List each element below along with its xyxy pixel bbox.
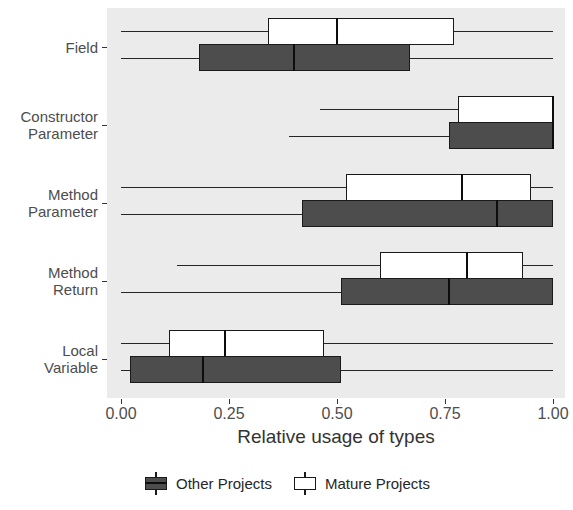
y-axis-tick-label: Method Parameter bbox=[8, 186, 98, 220]
x-axis-tick-label: 0.50 bbox=[321, 405, 352, 423]
box-median-line bbox=[202, 356, 204, 383]
box-median-line bbox=[448, 278, 450, 305]
box-rect bbox=[169, 330, 325, 357]
x-axis-tick-label: 0.00 bbox=[105, 405, 136, 423]
x-axis-tick-mark bbox=[121, 399, 122, 404]
y-axis-tick-label: Constructor Parameter bbox=[8, 108, 98, 142]
x-axis-tick-mark bbox=[337, 399, 338, 404]
y-axis-tick-mark bbox=[102, 281, 107, 282]
box-rect bbox=[199, 44, 411, 71]
x-axis-tick-label: 1.00 bbox=[537, 405, 568, 423]
x-axis-tick-mark bbox=[445, 399, 446, 404]
x-axis-tick-mark bbox=[229, 399, 230, 404]
x-axis-tick-label: 0.25 bbox=[213, 405, 244, 423]
x-axis-title: Relative usage of types bbox=[107, 426, 565, 448]
box-median-line bbox=[336, 18, 338, 45]
y-axis-tick-label: Local Variable bbox=[8, 342, 98, 376]
legend-label: Other Projects bbox=[176, 475, 272, 492]
box-rect bbox=[341, 278, 553, 305]
box-rect bbox=[380, 252, 523, 279]
y-axis-tick-mark bbox=[102, 47, 107, 48]
box-median-line bbox=[496, 200, 498, 227]
legend-boxplot-icon bbox=[292, 472, 318, 494]
box-median-line bbox=[552, 96, 554, 123]
boxplot-chart: FieldConstructor ParameterMethod Paramet… bbox=[0, 0, 573, 510]
box-rect bbox=[449, 122, 553, 149]
box-median-line bbox=[466, 252, 468, 279]
y-axis-tick-mark bbox=[102, 125, 107, 126]
legend-label: Mature Projects bbox=[325, 475, 430, 492]
box-median-line bbox=[461, 174, 463, 201]
y-axis-tick-label: Method Return bbox=[8, 264, 98, 298]
y-axis-tick-mark bbox=[102, 203, 107, 204]
box-rect bbox=[268, 18, 454, 45]
box-median-line bbox=[224, 330, 226, 357]
legend: Other ProjectsMature Projects bbox=[0, 472, 573, 494]
x-axis-tick-label: 0.75 bbox=[429, 405, 460, 423]
box-rect bbox=[346, 174, 532, 201]
box-rect bbox=[302, 200, 553, 227]
legend-item[interactable]: Mature Projects bbox=[292, 472, 430, 494]
legend-item[interactable]: Other Projects bbox=[143, 472, 272, 494]
box-rect bbox=[458, 96, 553, 123]
box-median-line bbox=[552, 122, 554, 149]
y-axis-tick-label: Field bbox=[8, 39, 98, 56]
x-axis-tick-mark bbox=[553, 399, 554, 404]
legend-boxplot-icon bbox=[143, 472, 169, 494]
y-axis-tick-mark bbox=[102, 359, 107, 360]
box-rect bbox=[130, 356, 342, 383]
box-median-line bbox=[293, 44, 295, 71]
